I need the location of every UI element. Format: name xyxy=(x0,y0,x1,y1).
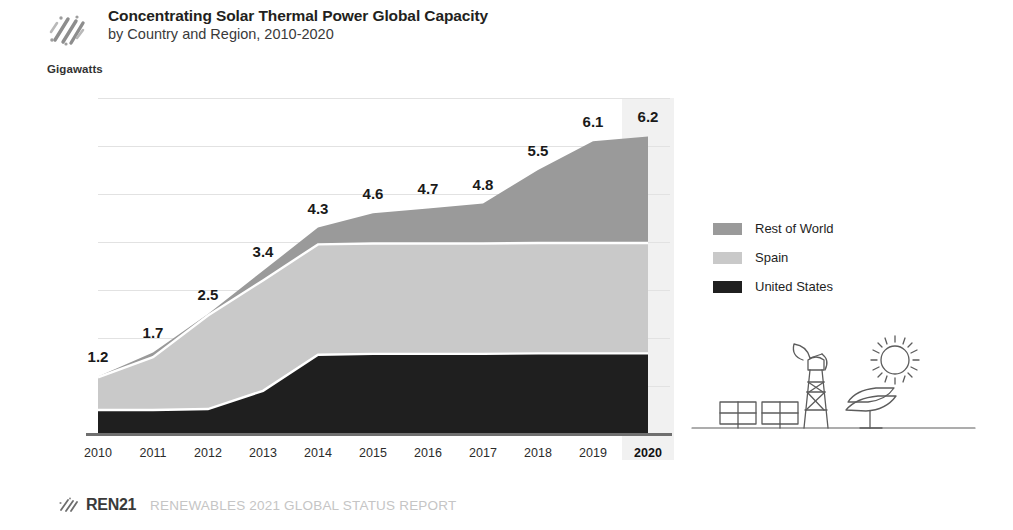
legend-label: Rest of World xyxy=(755,221,834,236)
data-value-label: 6.2 xyxy=(638,108,659,125)
data-value-label: 1.7 xyxy=(143,324,164,341)
csp-plant-illustration xyxy=(690,330,990,445)
legend-swatch xyxy=(713,223,742,235)
solar-tower-icon xyxy=(804,357,828,428)
x-axis-tick-label-2017: 2017 xyxy=(469,446,497,460)
parabolic-dish-icon xyxy=(846,388,896,428)
legend-label: United States xyxy=(755,279,833,294)
x-axis-tick-label-2010: 2010 xyxy=(84,446,112,460)
x-axis-tick-label-2012: 2012 xyxy=(194,446,222,460)
ren21-mark-icon xyxy=(58,496,80,514)
data-value-label: 6.1 xyxy=(583,113,604,130)
data-value-label: 4.3 xyxy=(308,200,329,217)
legend-item[interactable]: United States xyxy=(713,272,834,301)
footer-report-title: RENEWABLES 2021 GLOBAL STATUS REPORT xyxy=(150,498,456,513)
area-series-svg xyxy=(98,98,648,434)
legend-item[interactable]: Spain xyxy=(713,243,834,272)
legend-item[interactable]: Rest of World xyxy=(713,214,834,243)
x-axis-tick-label-2018: 2018 xyxy=(524,446,552,460)
sun-icon xyxy=(871,336,919,384)
stacked-area-plot xyxy=(98,98,648,434)
data-value-label: 4.8 xyxy=(473,176,494,193)
x-axis-tick-label-2011: 2011 xyxy=(140,446,167,460)
x-axis-tick-label-2013: 2013 xyxy=(249,446,277,460)
x-axis-baseline xyxy=(86,433,672,436)
footer: REN21 RENEWABLES 2021 GLOBAL STATUS REPO… xyxy=(58,496,456,514)
data-value-label: 5.5 xyxy=(528,142,549,159)
heliostat-icon xyxy=(793,344,827,370)
x-axis-tick-label-2015: 2015 xyxy=(359,446,387,460)
chart-legend: Rest of WorldSpainUnited States xyxy=(713,214,834,301)
data-value-label: 3.4 xyxy=(253,243,274,260)
legend-swatch xyxy=(713,281,742,293)
legend-swatch xyxy=(713,252,742,264)
chart-canvas: 01234567 1.21.72.53.44.34.64.74.85.56.16… xyxy=(0,0,700,480)
data-value-label: 1.2 xyxy=(88,348,109,365)
x-axis-tick-label-2014: 2014 xyxy=(304,446,332,460)
legend-label: Spain xyxy=(755,250,788,265)
x-axis-tick-label-2016: 2016 xyxy=(414,446,442,460)
solar-panels-icon xyxy=(720,402,798,428)
footer-brand: REN21 xyxy=(86,496,136,514)
x-axis-tick-label-2019: 2019 xyxy=(579,446,607,460)
x-axis-tick-label-2020: 2020 xyxy=(634,446,662,460)
data-value-label: 4.6 xyxy=(363,185,384,202)
data-value-label: 4.7 xyxy=(418,180,439,197)
data-value-label: 2.5 xyxy=(198,286,219,303)
